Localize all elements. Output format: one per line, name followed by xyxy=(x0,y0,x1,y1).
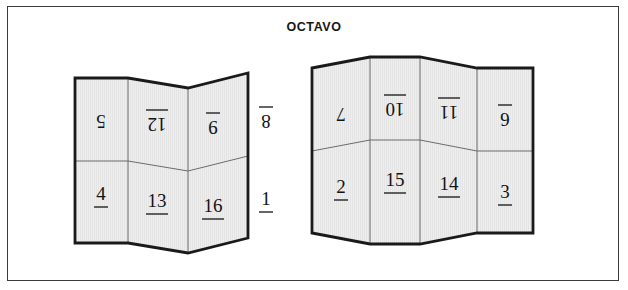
svg-text:9: 9 xyxy=(208,117,218,138)
svg-text:15: 15 xyxy=(386,169,405,190)
svg-text:10: 10 xyxy=(386,99,405,120)
panel-13: 13 xyxy=(146,190,168,214)
svg-text:8: 8 xyxy=(261,111,271,132)
right-sheet: 7 10 11 6 2 15 xyxy=(312,57,533,244)
svg-text:16: 16 xyxy=(204,195,223,216)
panel-15: 15 xyxy=(384,169,406,193)
svg-text:1: 1 xyxy=(261,188,271,209)
panel-10: 10 xyxy=(384,95,406,120)
panel-1: 1 xyxy=(259,188,273,212)
svg-text:11: 11 xyxy=(440,102,458,123)
svg-text:13: 13 xyxy=(148,190,167,211)
svg-text:6: 6 xyxy=(500,109,510,130)
panel-16: 16 xyxy=(202,195,224,219)
svg-text:12: 12 xyxy=(148,114,167,135)
svg-text:3: 3 xyxy=(500,181,510,202)
svg-text:14: 14 xyxy=(440,173,460,194)
octavo-figure: OCTAVO 5 12 xyxy=(0,0,628,290)
panel-8: 8 xyxy=(259,107,273,132)
panel-11: 11 xyxy=(438,98,460,123)
svg-text:2: 2 xyxy=(336,176,346,197)
panel-14: 14 xyxy=(438,173,460,197)
panel-5: 5 xyxy=(96,111,106,132)
folded-sheets-diagram: 5 12 9 8 4 13 1 xyxy=(0,0,628,290)
panel-7: 7 xyxy=(336,104,346,125)
svg-text:5: 5 xyxy=(96,111,106,132)
left-sheet: 5 12 9 8 4 13 1 xyxy=(75,73,273,253)
panel-12: 12 xyxy=(146,110,168,135)
svg-text:7: 7 xyxy=(336,104,346,125)
svg-text:4: 4 xyxy=(96,183,106,204)
